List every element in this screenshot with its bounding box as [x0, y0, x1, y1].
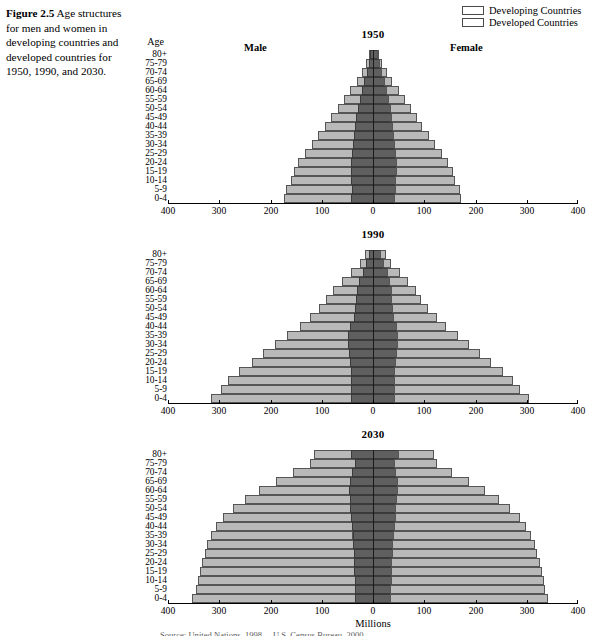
bar-male-developed — [351, 385, 374, 394]
bar-male-developing — [228, 376, 352, 385]
x-axis-tick — [424, 200, 425, 203]
bar-female-developed — [373, 531, 394, 540]
bar-female-developed — [373, 558, 392, 567]
bar-male-developing — [310, 313, 355, 322]
bar-female-developing — [395, 358, 491, 367]
bar-female-developed — [373, 376, 395, 385]
bar-female-developing — [393, 531, 531, 540]
legend-swatch-developed — [462, 18, 484, 27]
bar-male-developing — [275, 340, 349, 349]
bar-male-developing — [221, 385, 353, 394]
bar-female-developed — [373, 268, 388, 277]
source-note: Source: United Nations, 1998 ... U.S. Ce… — [160, 630, 364, 636]
bar-male-developed — [350, 477, 374, 486]
x-axis-tick-label: 200 — [251, 605, 291, 616]
bar-female-developed — [373, 149, 396, 158]
x-axis-tick-label: 100 — [404, 205, 444, 216]
bar-male-developed — [355, 585, 374, 594]
bar-female-developing — [391, 576, 544, 585]
bar-male-developing — [211, 394, 353, 403]
x-axis-tick — [322, 200, 323, 203]
bar-female-developed — [373, 495, 397, 504]
x-axis-tick-label: 200 — [456, 405, 496, 416]
bar-male-developing — [202, 558, 355, 567]
x-axis-tick — [219, 400, 220, 403]
legend-label-developed: Developed Countries — [489, 17, 578, 28]
bar-female-developing — [383, 259, 391, 268]
bar-female-developed — [373, 185, 396, 194]
panel-title-1990: 1990 — [0, 228, 590, 240]
bar-female-developed — [373, 95, 389, 104]
bar-female-developing — [394, 194, 461, 203]
bar-female-developed — [373, 313, 394, 322]
panel-title-2030: 2030 — [0, 428, 590, 440]
bar-male-developing — [207, 540, 354, 549]
bar-male-developing — [294, 167, 352, 176]
bar-male-developed — [352, 185, 374, 194]
bar-female-developing — [395, 504, 510, 513]
x-axis-line — [168, 203, 578, 204]
bar-male-developed — [359, 277, 374, 286]
bar-male-developing — [233, 504, 352, 513]
bar-male-developing — [200, 567, 355, 576]
x-axis-tick-label: 0 — [353, 405, 393, 416]
bar-male-developed — [350, 322, 374, 331]
bar-female-developing — [391, 113, 417, 122]
bar-female-developing — [393, 131, 429, 140]
bar-female-developing — [396, 495, 498, 504]
bar-female-developed — [373, 358, 396, 367]
bar-female-developing — [396, 167, 453, 176]
bar-male-developing — [196, 585, 356, 594]
x-axis-tick-label: 300 — [507, 405, 547, 416]
x-axis-line — [168, 403, 578, 404]
bar-female-developed — [373, 450, 399, 459]
bar-female-developing — [391, 286, 416, 295]
x-axis-tick — [424, 600, 425, 603]
axis-end-cap — [168, 200, 169, 204]
bar-female-developed — [373, 140, 395, 149]
bar-female-developing — [394, 385, 521, 394]
bar-male-developing — [310, 459, 355, 468]
bar-male-developing — [325, 122, 356, 131]
bar-female-developed — [373, 594, 391, 603]
bar-female-developed — [373, 86, 387, 95]
bar-female-developed — [373, 585, 391, 594]
bar-male-developed — [349, 349, 374, 358]
bar-male-developing — [312, 140, 354, 149]
bar-female-developing — [391, 295, 421, 304]
bar-female-developing — [397, 477, 470, 486]
bar-male-developed — [351, 176, 374, 185]
bar-male-developed — [354, 131, 374, 140]
x-axis-title: Millions — [0, 618, 590, 629]
bar-male-developed — [351, 394, 374, 403]
x-axis-tick-label: 200 — [456, 205, 496, 216]
bar-female-developing — [387, 268, 400, 277]
bar-male-developing — [216, 522, 353, 531]
bar-female-developed — [373, 122, 393, 131]
zero-center-line — [373, 250, 374, 403]
bar-female-developing — [390, 585, 545, 594]
bar-male-developed — [355, 594, 374, 603]
age-axis-title-1950: Age — [128, 36, 164, 47]
x-axis-tick-label: 200 — [251, 405, 291, 416]
x-axis-tick-label: 300 — [507, 605, 547, 616]
x-axis-tick-label: 400 — [558, 605, 590, 616]
bar-male-developing — [318, 131, 355, 140]
x-axis-tick-label: 100 — [404, 605, 444, 616]
bar-female-developing — [379, 59, 383, 68]
bar-male-developed — [348, 340, 374, 349]
x-axis-tick-label: 300 — [507, 205, 547, 216]
x-axis-tick — [476, 600, 477, 603]
x-axis-tick — [219, 200, 220, 203]
x-axis-tick — [219, 600, 220, 603]
bar-male-developing — [263, 349, 350, 358]
bar-female-developed — [373, 104, 391, 113]
bar-female-developed — [373, 340, 398, 349]
bar-male-developed — [354, 558, 374, 567]
x-axis-line — [168, 603, 578, 604]
bar-female-developing — [395, 468, 452, 477]
x-axis-tick — [373, 400, 374, 403]
legend-item-developing: Developing Countries — [462, 5, 590, 16]
bar-male-developed — [354, 549, 374, 558]
x-axis-tick-label: 300 — [199, 405, 239, 416]
